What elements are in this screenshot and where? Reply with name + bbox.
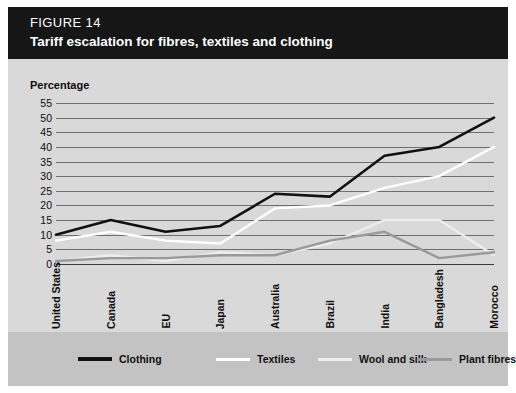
x-tick-label: India bbox=[379, 304, 391, 329]
chart-legend: ClothingTextilesWool and silkPlant fibre… bbox=[8, 332, 508, 386]
x-tick-label: Australia bbox=[269, 284, 281, 329]
figure-header: FIGURE 14 Tariff escalation for fibres, … bbox=[8, 7, 508, 59]
y-tick-label: 40 bbox=[30, 141, 52, 153]
y-tick-label: 5 bbox=[30, 243, 52, 255]
y-tick-label: 15 bbox=[30, 214, 52, 226]
figure-title: Tariff escalation for fibres, textiles a… bbox=[30, 34, 333, 49]
y-tick-label: 20 bbox=[30, 199, 52, 211]
legend-item-plant-fibres[interactable]: Plant fibres bbox=[418, 351, 516, 367]
legend-swatch-icon bbox=[318, 358, 352, 361]
y-tick-label: 30 bbox=[30, 170, 52, 182]
y-tick-label: 10 bbox=[30, 229, 52, 241]
y-axis-title: Percentage bbox=[30, 79, 89, 91]
legend-item-textiles[interactable]: Textiles bbox=[216, 351, 295, 367]
series-line-clothing bbox=[56, 118, 494, 235]
x-axis-tick-labels: United StatesCanadaEUJapanAustraliaBrazi… bbox=[56, 267, 494, 331]
figure-inner-panel: FIGURE 14 Tariff escalation for fibres, … bbox=[8, 7, 508, 386]
x-tick-label: Japan bbox=[214, 299, 226, 329]
y-tick-label: 0 bbox=[30, 258, 52, 270]
legend-item-wool-and-silk[interactable]: Wool and silk bbox=[318, 351, 426, 367]
x-tick-label: Brazil bbox=[324, 300, 336, 329]
chart-area: Percentage 5550454035302520151050 United… bbox=[8, 59, 508, 332]
legend-label: Clothing bbox=[119, 353, 162, 365]
x-tick-label: EU bbox=[160, 314, 172, 329]
x-tick-label: Bangladesh bbox=[433, 269, 445, 329]
legend-swatch-icon bbox=[216, 358, 250, 361]
legend-swatch-icon bbox=[418, 358, 452, 361]
y-tick-label: 45 bbox=[30, 126, 52, 138]
figure-number: FIGURE 14 bbox=[30, 15, 101, 30]
legend-items: ClothingTextilesWool and silkPlant fibre… bbox=[8, 332, 508, 386]
x-axis-line bbox=[56, 264, 494, 265]
legend-swatch-icon bbox=[78, 357, 112, 361]
legend-label: Textiles bbox=[257, 353, 295, 365]
x-tick-label: Morocco bbox=[488, 285, 500, 329]
y-tick-label: 50 bbox=[30, 112, 52, 124]
y-axis-tick-labels: 5550454035302520151050 bbox=[28, 103, 52, 264]
y-tick-label: 35 bbox=[30, 156, 52, 168]
y-tick-label: 55 bbox=[30, 97, 52, 109]
x-tick-label: United States bbox=[50, 262, 62, 329]
y-tick-label: 25 bbox=[30, 185, 52, 197]
x-tick-label: Canada bbox=[105, 291, 117, 329]
series-lines bbox=[56, 103, 494, 264]
plot-region bbox=[56, 103, 494, 264]
legend-item-clothing[interactable]: Clothing bbox=[78, 351, 162, 367]
legend-label: Plant fibres bbox=[459, 353, 516, 365]
figure-card: FIGURE 14 Tariff escalation for fibres, … bbox=[0, 0, 516, 393]
legend-label: Wool and silk bbox=[359, 353, 426, 365]
